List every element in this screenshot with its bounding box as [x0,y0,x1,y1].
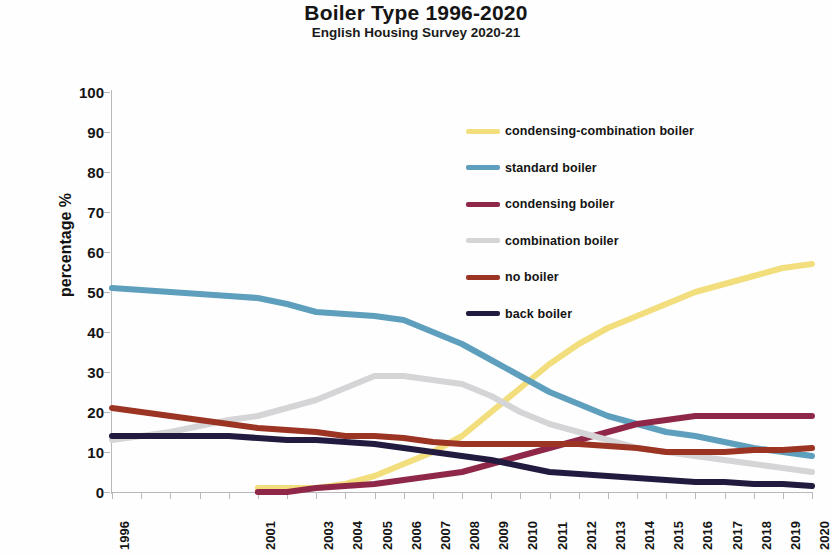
y-tick-60: 60 [87,244,104,261]
y-tick-mark [104,172,110,173]
legend-item-standard-boiler[interactable]: standard boiler [466,150,806,187]
x-tick-2005: 2005 [380,521,395,550]
y-tick-mark [104,332,110,333]
legend-item-condensing-combination-boiler[interactable]: condensing-combination boiler [466,113,806,150]
legend-swatch-icon [466,311,500,316]
y-tick-mark [104,492,110,493]
x-tick-2007: 2007 [438,521,453,550]
chart-title-block: Boiler Type 1996-2020 English Housing Su… [0,2,832,41]
x-tick-2008: 2008 [467,521,482,550]
y-tick-90: 90 [87,124,104,141]
legend-item-back-boiler[interactable]: back boiler [466,296,806,333]
x-tick-2015: 2015 [671,521,686,550]
x-tick-2001: 2001 [263,521,278,550]
legend-item-condensing-boiler[interactable]: condensing boiler [466,186,806,223]
legend-swatch-icon [466,202,500,207]
y-tick-70: 70 [87,204,104,221]
legend-item-combination-boiler[interactable]: combination boiler [466,223,806,260]
x-tick-2012: 2012 [584,521,599,550]
x-tick-2009: 2009 [496,521,511,550]
y-tick-20: 20 [87,404,104,421]
legend-swatch-icon [466,275,500,280]
legend-swatch-icon [466,238,500,243]
y-tick-10: 10 [87,444,104,461]
x-tick-2010: 2010 [525,521,540,550]
y-tick-mark [104,212,110,213]
y-tick-30: 30 [87,364,104,381]
y-axis-tick-labels: 0102030405060708090100 [60,92,104,492]
x-tick-2004: 2004 [350,521,365,550]
legend-label: no boiler [505,270,559,284]
y-tick-40: 40 [87,324,104,341]
legend-label: condensing-combination boiler [505,124,694,138]
legend-label: standard boiler [505,161,597,175]
x-tick-2016: 2016 [700,521,715,550]
x-tick-2019: 2019 [788,521,803,550]
y-tick-80: 80 [87,164,104,181]
chart-subtitle: English Housing Survey 2020-21 [0,26,832,41]
legend-swatch-icon [466,129,500,134]
y-tick-mark [104,132,110,133]
y-tick-100: 100 [79,84,104,101]
x-tick-2017: 2017 [730,521,745,550]
chart-legend: condensing-combination boilerstandard bo… [466,113,806,332]
legend-swatch-icon [466,165,500,170]
x-axis-tick-labels: 1996200120032004200520062007200820092010… [0,498,832,555]
x-tick-2011: 2011 [555,522,570,550]
y-tick-mark [104,452,110,453]
page-title: Boiler Type 1996-2020 [0,2,832,25]
x-tick-2013: 2013 [613,521,628,550]
boiler-type-line-chart: Boiler Type 1996-2020 English Housing Su… [0,0,832,555]
x-tick-2020: 2020 [817,521,832,550]
legend-label: back boiler [505,307,572,321]
y-tick-mark [104,292,110,293]
y-tick-mark [104,412,110,413]
y-tick-mark [104,372,110,373]
x-tick-1996: 1996 [117,521,132,550]
legend-item-no-boiler[interactable]: no boiler [466,259,806,296]
y-axis-title-wrap: percentage % [0,150,42,340]
x-tick-2014: 2014 [642,521,657,550]
x-tick-2003: 2003 [321,521,336,550]
y-tick-mark [104,92,110,93]
y-tick-50: 50 [87,284,104,301]
x-tick-2018: 2018 [759,521,774,550]
x-tick-2006: 2006 [409,521,424,550]
legend-label: combination boiler [505,234,619,248]
y-tick-mark [104,252,110,253]
legend-label: condensing boiler [505,197,614,211]
